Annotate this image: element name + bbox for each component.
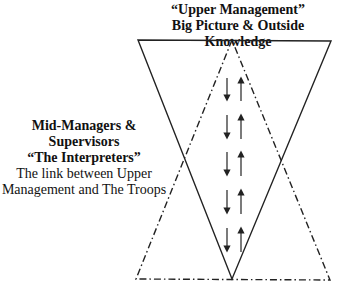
pyramid-diagram	[0, 0, 340, 290]
inverted-triangle-solid	[138, 40, 331, 279]
upright-triangle-dashdot	[136, 40, 330, 280]
